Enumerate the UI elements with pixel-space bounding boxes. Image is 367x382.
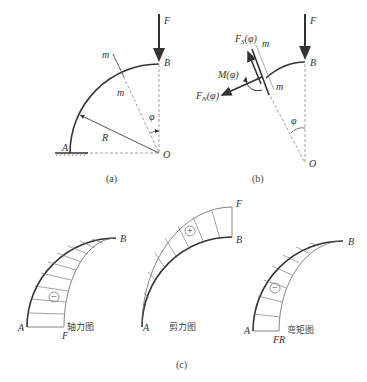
sign-minus: − [272, 282, 278, 293]
angle-label: φ [149, 111, 155, 122]
section-m-top: m [102, 49, 109, 60]
origin-label: O [163, 149, 170, 160]
axial-title: 轴力图 [67, 321, 94, 332]
arc-segment [266, 62, 305, 78]
caption-a: (a) [106, 173, 117, 185]
shear-force-diagram: + F B A 剪力图 [142, 198, 243, 333]
section-m-mid: m [276, 81, 283, 92]
angle-arc [150, 131, 159, 133]
radius-label: R [101, 132, 108, 143]
normal-label: FN(φ) [195, 90, 220, 103]
sign-plus: + [187, 225, 193, 236]
force-label: F [309, 15, 317, 26]
caption-b: (b) [252, 173, 264, 185]
figure-b: FS(φ) M(φ) FN(φ) m m F B O φ (b) [195, 14, 317, 185]
mechanics-figure: F B A O R φ m m (a) FS(φ) M(φ) FN(φ) m m… [0, 0, 367, 382]
section-m-top: m [262, 38, 269, 49]
caption-c: (c) [176, 359, 187, 371]
angle-label: φ [291, 115, 297, 126]
radius-arrow [80, 115, 159, 153]
diagram-canvas: F B A O R φ m m (a) FS(φ) M(φ) FN(φ) m m… [0, 0, 367, 382]
svg-text:B: B [236, 234, 242, 245]
shear-title: 剪力图 [169, 321, 196, 332]
svg-text:A: A [142, 322, 150, 333]
arc-beam [70, 64, 159, 153]
axial-force-diagram: − B A F 轴力图 [17, 233, 126, 341]
svg-text:A: A [243, 325, 251, 336]
svg-text:B: B [120, 233, 126, 244]
figure-a: F B A O R φ m m (a) [55, 14, 171, 185]
svg-text:F: F [235, 198, 243, 209]
point-b-label: B [310, 57, 316, 68]
force-label: F [163, 15, 171, 26]
shear-label: FS(φ) [234, 33, 257, 46]
svg-text:FR: FR [272, 334, 285, 345]
sign-minus: − [51, 291, 57, 302]
svg-text:B: B [348, 236, 354, 247]
origin-label: O [309, 158, 316, 169]
svg-text:A: A [17, 322, 25, 333]
point-a-label: A [61, 142, 69, 153]
section-m-mid: m [117, 87, 124, 98]
point-b-label: B [164, 57, 170, 68]
moment-label: M(φ) [217, 69, 239, 81]
bending-moment-diagram: − B A FR 弯矩图 [243, 236, 354, 345]
moment-title: 弯矩图 [287, 324, 314, 335]
